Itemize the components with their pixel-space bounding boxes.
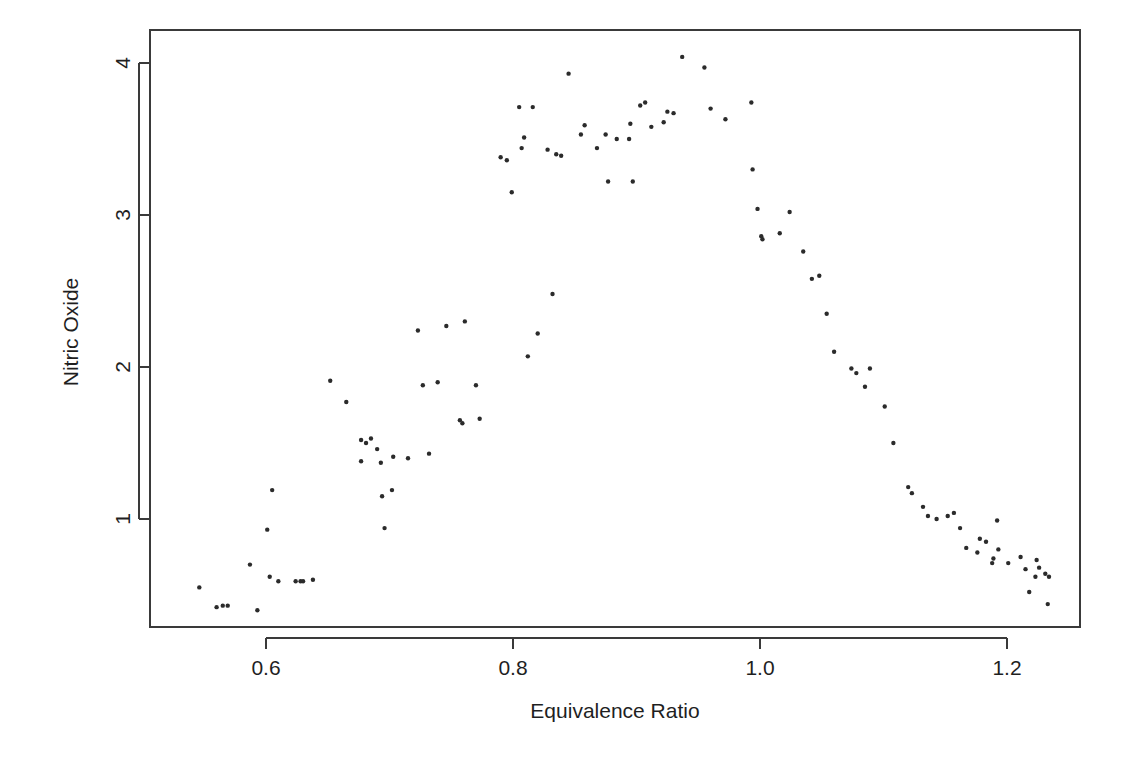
data-point[interactable] [787, 210, 791, 214]
data-point[interactable] [849, 366, 853, 370]
data-point[interactable] [1027, 590, 1031, 594]
data-point[interactable] [702, 65, 706, 69]
data-point[interactable] [328, 378, 332, 382]
data-point[interactable] [975, 550, 979, 554]
data-point[interactable] [883, 404, 887, 408]
data-point[interactable] [519, 146, 523, 150]
data-point[interactable] [1046, 602, 1050, 606]
data-point[interactable] [615, 137, 619, 141]
data-point[interactable] [463, 319, 467, 323]
data-point[interactable] [364, 441, 368, 445]
data-point[interactable] [801, 249, 805, 253]
data-point[interactable] [1033, 575, 1037, 579]
data-point[interactable] [531, 105, 535, 109]
data-point[interactable] [421, 383, 425, 387]
data-point[interactable] [649, 125, 653, 129]
data-point[interactable] [749, 100, 753, 104]
data-point[interactable] [526, 354, 530, 358]
data-point[interactable] [582, 123, 586, 127]
data-point[interactable] [723, 117, 727, 121]
data-point[interactable] [1034, 558, 1038, 562]
data-point[interactable] [891, 441, 895, 445]
data-point[interactable] [854, 371, 858, 375]
data-point[interactable] [293, 579, 297, 583]
data-point[interactable] [505, 158, 509, 162]
data-point[interactable] [255, 608, 259, 612]
data-point[interactable] [226, 603, 230, 607]
data-point[interactable] [510, 190, 514, 194]
data-point[interactable] [755, 207, 759, 211]
data-point[interactable] [214, 605, 218, 609]
scatter-plot[interactable]: 1234 0.60.81.01.2 Equivalence Ratio Nitr… [0, 0, 1132, 772]
data-point[interactable] [631, 179, 635, 183]
data-point[interactable] [268, 575, 272, 579]
data-point[interactable] [991, 556, 995, 560]
data-point[interactable] [708, 106, 712, 110]
data-point[interactable] [380, 494, 384, 498]
data-point[interactable] [391, 454, 395, 458]
data-point[interactable] [906, 485, 910, 489]
data-point[interactable] [197, 585, 201, 589]
data-point[interactable] [1043, 572, 1047, 576]
data-point[interactable] [579, 132, 583, 136]
data-point[interactable] [926, 514, 930, 518]
data-point[interactable] [265, 527, 269, 531]
data-point[interactable] [750, 167, 754, 171]
data-point[interactable] [474, 383, 478, 387]
data-point[interactable] [444, 324, 448, 328]
data-point[interactable] [824, 312, 828, 316]
data-point[interactable] [680, 55, 684, 59]
data-point[interactable] [921, 505, 925, 509]
data-point[interactable] [427, 451, 431, 455]
data-point[interactable] [817, 274, 821, 278]
data-point[interactable] [978, 537, 982, 541]
data-point[interactable] [958, 526, 962, 530]
data-point[interactable] [270, 488, 274, 492]
data-point[interactable] [406, 456, 410, 460]
data-point[interactable] [964, 546, 968, 550]
data-point[interactable] [832, 350, 836, 354]
data-point[interactable] [995, 518, 999, 522]
data-point[interactable] [369, 436, 373, 440]
data-point[interactable] [1018, 555, 1022, 559]
data-point[interactable] [550, 292, 554, 296]
data-point[interactable] [868, 366, 872, 370]
data-point[interactable] [1023, 567, 1027, 571]
data-point[interactable] [559, 154, 563, 158]
data-point[interactable] [221, 603, 225, 607]
data-point[interactable] [382, 526, 386, 530]
data-point[interactable] [344, 400, 348, 404]
data-point[interactable] [435, 380, 439, 384]
data-point[interactable] [606, 179, 610, 183]
data-point[interactable] [934, 517, 938, 521]
data-point[interactable] [810, 277, 814, 281]
data-point[interactable] [760, 237, 764, 241]
data-point[interactable] [910, 491, 914, 495]
data-point[interactable] [460, 421, 464, 425]
data-point[interactable] [990, 561, 994, 565]
data-point[interactable] [536, 331, 540, 335]
data-point[interactable] [416, 328, 420, 332]
data-point[interactable] [390, 488, 394, 492]
data-point[interactable] [276, 579, 280, 583]
data-point[interactable] [248, 562, 252, 566]
data-point[interactable] [661, 120, 665, 124]
data-point[interactable] [628, 122, 632, 126]
data-point[interactable] [595, 146, 599, 150]
data-point[interactable] [1047, 575, 1051, 579]
data-point[interactable] [517, 105, 521, 109]
data-point[interactable] [522, 135, 526, 139]
data-point[interactable] [778, 231, 782, 235]
data-point[interactable] [359, 438, 363, 442]
data-point[interactable] [545, 147, 549, 151]
data-points-layer[interactable] [197, 55, 1051, 613]
data-point[interactable] [946, 514, 950, 518]
data-point[interactable] [375, 447, 379, 451]
data-point[interactable] [671, 111, 675, 115]
data-point[interactable] [359, 459, 363, 463]
data-point[interactable] [665, 109, 669, 113]
data-point[interactable] [643, 100, 647, 104]
data-point[interactable] [952, 511, 956, 515]
data-point[interactable] [627, 137, 631, 141]
data-point[interactable] [996, 547, 1000, 551]
